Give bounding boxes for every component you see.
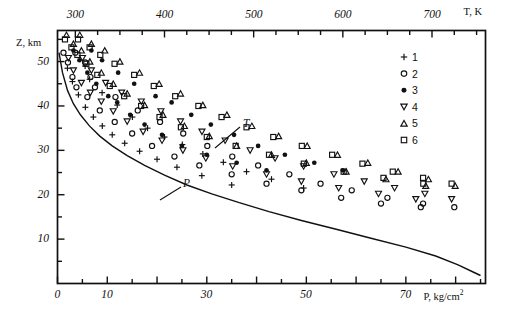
tick-label: 10 <box>101 289 113 301</box>
tick-label: 10 <box>38 233 50 245</box>
tick-label: 40 <box>38 100 50 112</box>
tick-label: 600 <box>334 9 351 21</box>
tick-label: 0 <box>55 289 61 301</box>
tick-label: 20 <box>38 189 50 201</box>
legend-item-6: 6 <box>412 135 418 146</box>
bottom-axis-label: P, kg/cm2 <box>424 289 464 302</box>
legend-item-1: 1 <box>412 52 418 63</box>
tick-label: 50 <box>300 289 312 301</box>
figure-root: T, K Z, km P, kg/cm2 3004005006007000103… <box>0 0 508 314</box>
data-markers <box>61 32 458 210</box>
legend-item-3: 3 <box>412 85 418 96</box>
P-curve-label: P <box>183 178 190 190</box>
tick-label: 50 <box>38 56 50 68</box>
tick-label: 30 <box>38 144 50 156</box>
top-axis-label: T, K <box>464 7 482 18</box>
legend-item-2: 2 <box>412 69 418 80</box>
T-curve-label: T <box>243 118 249 130</box>
tick-label: 700 <box>424 9 441 21</box>
legend-item-4: 4 <box>412 102 418 113</box>
legend-markers <box>401 54 407 143</box>
plot-canvas <box>0 0 508 314</box>
tick-label: 30 <box>201 289 213 301</box>
left-axis-label: Z, km <box>16 38 41 49</box>
legend-item-5: 5 <box>412 118 418 129</box>
tick-label: 500 <box>245 9 262 21</box>
tick-label: 400 <box>156 9 173 21</box>
tick-label: 70 <box>400 289 412 301</box>
tick-label: 300 <box>67 9 84 21</box>
